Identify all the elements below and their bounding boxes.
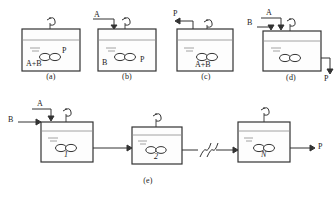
- panel-b-semibatch-feed: A B P (b): [80, 10, 165, 80]
- agitator-motor-icon: [47, 17, 55, 25]
- stage-n-number: N: [261, 151, 266, 159]
- panel-e-drawing: [8, 100, 328, 200]
- panel-c-semibatch-removal: P A+B (c): [163, 10, 245, 80]
- panel-b-inlet-label-a: A: [94, 11, 100, 19]
- connector-1-to-2: [93, 145, 132, 151]
- panel-b-product-label: P: [140, 56, 144, 64]
- panel-d-drawing: [245, 8, 335, 82]
- outlet-line-p: [290, 145, 315, 151]
- outlet-line-p: [175, 18, 193, 29]
- feed-line-b: [18, 119, 41, 125]
- panel-b-reactant-label: B: [102, 59, 107, 67]
- outlet-line-p: [321, 58, 333, 74]
- panel-a-product-label: P: [62, 47, 66, 55]
- stage-1-group: [18, 108, 93, 162]
- panel-d-inlet-label-a: A: [266, 9, 272, 17]
- panel-e-caption: (e): [133, 176, 163, 185]
- stage-2-number: 2: [154, 153, 158, 161]
- panel-b-drawing: [80, 10, 165, 80]
- panel-d-cstr: A B P (d): [245, 8, 335, 82]
- tank-vessel: [263, 31, 321, 71]
- feed-line-a: [32, 109, 54, 121]
- agitator-motor-icon: [287, 18, 295, 26]
- agitator-motor-icon: [63, 108, 71, 116]
- panel-b-caption: (b): [112, 72, 142, 81]
- panel-c-caption: (c): [191, 72, 221, 81]
- panel-e-outlet-label-p: P: [318, 143, 322, 151]
- panel-d-caption: (d): [276, 73, 306, 82]
- agitator-motor-icon: [122, 17, 130, 25]
- agitator-motor-icon: [153, 113, 161, 121]
- connector-break-to-n: [216, 147, 238, 153]
- feed-line-a: [93, 19, 117, 29]
- panel-e-inlet-label-a: A: [37, 100, 43, 108]
- panel-c-drawing: [163, 10, 245, 80]
- stage-1-number: 1: [64, 151, 68, 159]
- panel-d-outlet-label-p: P: [324, 75, 328, 83]
- panel-e-cstr-cascade: A B 1 2 N P (e): [8, 100, 328, 200]
- panel-d-inlet-label-b: B: [247, 19, 252, 27]
- agitator-motor-icon: [261, 107, 269, 115]
- agitator-motor-icon: [204, 19, 212, 27]
- panel-a-caption: (a): [36, 72, 66, 81]
- panel-e-inlet-label-b: B: [8, 116, 13, 124]
- feed-line-b: [257, 25, 274, 30]
- panel-c-reactant-label: A+B: [195, 61, 211, 69]
- panel-c-outlet-label-p: P: [173, 10, 177, 18]
- panel-a-reactant-label: A+B: [26, 60, 42, 68]
- flow-break-icon: [200, 143, 218, 157]
